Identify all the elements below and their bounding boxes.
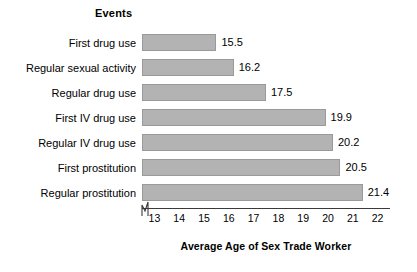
category-label: Regular drug use xyxy=(52,87,136,99)
bar-value-label: 17.5 xyxy=(271,86,292,98)
category-label: Regular sexual activity xyxy=(26,62,136,74)
bar-value-label: 20.2 xyxy=(338,136,359,148)
bar-value-label: 19.9 xyxy=(331,111,352,123)
x-tick-label: 17 xyxy=(243,212,265,224)
bar xyxy=(142,109,326,126)
bar xyxy=(142,184,363,201)
bar xyxy=(142,34,216,51)
bar xyxy=(142,134,333,151)
category-label: First drug use xyxy=(69,37,136,49)
category-label: Regular IV drug use xyxy=(38,137,136,149)
x-tick-label: 19 xyxy=(292,212,314,224)
category-label: First IV drug use xyxy=(55,112,136,124)
x-tick-label: 20 xyxy=(317,212,339,224)
x-tick-label: 14 xyxy=(168,212,190,224)
bar xyxy=(142,59,234,76)
bar-value-label: 20.5 xyxy=(345,161,366,173)
bar xyxy=(142,159,340,176)
category-label-column: First drug use Regular sexual activity R… xyxy=(0,0,136,272)
x-tick-label: 13 xyxy=(143,212,165,224)
bar-value-label: 16.2 xyxy=(239,61,260,73)
x-tick-label: 21 xyxy=(342,212,364,224)
x-tick-label: 15 xyxy=(193,212,215,224)
bar-value-label: 21.4 xyxy=(368,186,389,198)
bar-value-label: 15.5 xyxy=(221,36,242,48)
category-label: Regular prostitution xyxy=(41,187,136,199)
category-label: First prostitution xyxy=(58,162,136,174)
bar-chart: Events First drug use Regular sexual act… xyxy=(0,0,417,272)
x-tick-label: 16 xyxy=(218,212,240,224)
x-axis-line xyxy=(142,208,390,209)
bar xyxy=(142,84,266,101)
x-axis-title: Average Age of Sex Trade Worker xyxy=(142,240,390,252)
plot-area: 15.5 16.2 17.5 19.9 20.2 20.5 21.4 xyxy=(142,28,390,208)
x-tick-label: 22 xyxy=(367,212,389,224)
x-tick-label: 18 xyxy=(267,212,289,224)
